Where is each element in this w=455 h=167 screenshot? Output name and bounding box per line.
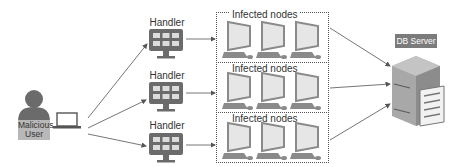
infected-pc-icon <box>256 123 287 160</box>
user-label-line-2: User <box>18 130 50 139</box>
handler-monitor-icon <box>148 81 186 113</box>
infected-pc-icon <box>256 73 287 110</box>
db-server-label: DB Server <box>395 34 437 48</box>
infected-pc-icon <box>222 73 253 110</box>
infected-pcs-row-3 <box>222 121 322 161</box>
db-server-icon <box>388 54 448 128</box>
infected-pc-icon <box>222 22 253 59</box>
edge-attacker-handler-2 <box>88 100 146 128</box>
handler-label-1: Handler <box>142 17 192 28</box>
handler-monitor-icon <box>148 28 186 60</box>
handler-monitor-icon <box>148 132 186 164</box>
infected-pc-icon <box>256 22 287 59</box>
group-label-1: Infected nodes <box>230 9 300 20</box>
infected-pc-icon <box>290 73 321 110</box>
laptop-icon <box>52 112 84 130</box>
malicious-user-label: Malicious User <box>18 120 50 140</box>
handler-label-3: Handler <box>142 120 192 131</box>
malicious-user-icon <box>16 88 56 122</box>
infected-pcs-row-1 <box>222 20 322 60</box>
edge-attacker-handler-1 <box>88 44 147 118</box>
document-icon <box>420 86 444 126</box>
infected-pc-icon <box>290 123 321 160</box>
botnet-diagram: Malicious User Handler Handler Handler <box>0 0 455 167</box>
infected-pc-icon <box>290 22 321 59</box>
infected-pc-icon <box>222 123 253 160</box>
edge-attacker-handler-3 <box>88 134 146 146</box>
handler-label-2: Handler <box>142 70 192 81</box>
infected-pcs-row-2 <box>222 71 322 111</box>
